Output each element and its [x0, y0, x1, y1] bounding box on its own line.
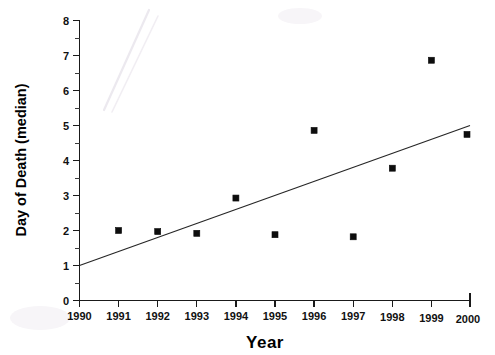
scan-streak-secondary-icon — [112, 16, 158, 112]
data-point-1994 — [233, 195, 239, 201]
data-point-1992 — [155, 229, 161, 235]
x-axis-ticks — [80, 301, 471, 308]
y-tick-label-1: 1 — [63, 260, 69, 272]
y-tick-label-0: 0 — [63, 295, 69, 307]
x-tick-label-1999: 1999 — [419, 312, 443, 324]
x-tick-label-1993: 1993 — [185, 310, 209, 322]
x-axis-tick-labels: 1990 1991 1992 1993 1994 1995 1996 1997 … — [67, 310, 480, 325]
data-point-group — [116, 57, 470, 240]
regression-trend-line — [80, 126, 471, 266]
y-tick-label-8: 8 — [63, 15, 69, 27]
data-point-1996 — [311, 127, 317, 133]
scatter-plot-canvas: 0 1 2 3 4 5 6 7 8 1990 1991 — [0, 0, 495, 355]
data-point-2000 — [464, 131, 470, 137]
x-tick-label-1995: 1995 — [263, 310, 287, 322]
trend-line-group — [80, 126, 471, 266]
scan-streak-icon — [104, 10, 149, 110]
y-tick-label-4: 4 — [63, 155, 70, 167]
y-axis-major-ticks — [73, 21, 80, 301]
scan-smudge-top-icon — [278, 8, 322, 24]
data-point-1997 — [350, 234, 356, 240]
scan-smudge-icon — [10, 306, 70, 330]
y-axis-title: Day of Death (median) — [13, 83, 29, 236]
x-tick-label-1997: 1997 — [341, 310, 365, 322]
x-tick-label-1991: 1991 — [106, 310, 130, 322]
x-tick-label-1994: 1994 — [224, 310, 249, 322]
data-point-1993 — [194, 230, 200, 236]
x-tick-label-1996: 1996 — [302, 310, 326, 322]
y-tick-label-7: 7 — [63, 50, 69, 62]
data-point-1995 — [272, 232, 278, 238]
x-tick-label-1992: 1992 — [145, 310, 169, 322]
scan-artifact-group — [10, 8, 322, 330]
y-axis-tick-labels: 0 1 2 3 4 5 6 7 8 — [63, 15, 70, 307]
axes-group — [80, 20, 471, 301]
y-tick-label-2: 2 — [63, 225, 69, 237]
x-axis-title: Year — [246, 333, 284, 352]
x-tick-label-2000: 2000 — [456, 313, 480, 325]
y-tick-label-5: 5 — [63, 120, 69, 132]
y-tick-label-6: 6 — [63, 85, 69, 97]
x-tick-label-1990: 1990 — [67, 310, 91, 322]
chart-figure: 0 1 2 3 4 5 6 7 8 1990 1991 — [0, 0, 495, 355]
data-point-1999 — [428, 57, 434, 63]
x-tick-label-1998: 1998 — [380, 311, 404, 323]
y-tick-label-3: 3 — [63, 190, 69, 202]
data-point-1998 — [389, 165, 395, 171]
data-point-1991 — [116, 228, 122, 234]
